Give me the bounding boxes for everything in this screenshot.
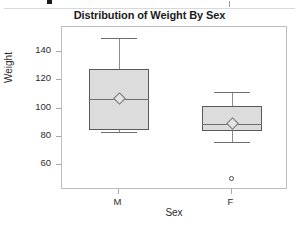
y-axis-tick: 60 bbox=[0, 164, 61, 165]
upper-whisker-cap bbox=[214, 92, 250, 93]
y-axis-label: Weight bbox=[3, 18, 14, 118]
upper-whisker-cap bbox=[101, 38, 137, 39]
caret-icon bbox=[229, 1, 230, 7]
y-axis-tick: 80 bbox=[0, 136, 61, 137]
x-axis-label: Sex bbox=[61, 207, 287, 218]
upper-whisker bbox=[232, 92, 233, 106]
lower-whisker bbox=[232, 131, 233, 142]
x-tick-mark bbox=[231, 189, 232, 194]
chart-title: Distribution of Weight By Sex bbox=[0, 9, 299, 21]
y-tick-label: 120 bbox=[11, 72, 51, 83]
y-tick-label: 60 bbox=[11, 157, 51, 168]
x-tick-label: F bbox=[211, 196, 251, 207]
lower-whisker-cap bbox=[101, 132, 137, 133]
lower-whisker-cap bbox=[214, 142, 250, 143]
plot-area bbox=[61, 26, 287, 189]
y-tick-label: 100 bbox=[11, 101, 51, 112]
y-tick-label: 140 bbox=[11, 44, 51, 55]
upper-whisker bbox=[119, 38, 120, 69]
outlier-point bbox=[229, 176, 234, 181]
cropped-top-strip bbox=[0, 0, 299, 9]
chart-screenshot: Distribution of Weight By Sex 1401201008… bbox=[0, 0, 299, 230]
square-marker-icon bbox=[47, 0, 52, 4]
x-tick-mark bbox=[118, 189, 119, 194]
x-tick-label: M bbox=[98, 196, 138, 207]
y-tick-label: 80 bbox=[11, 129, 51, 140]
